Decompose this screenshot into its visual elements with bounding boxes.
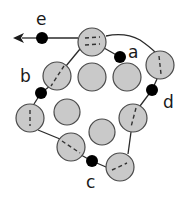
point-c <box>86 155 98 167</box>
label-e: e <box>36 9 46 29</box>
circle-mid-2 <box>113 63 141 91</box>
label-a: a <box>128 42 138 62</box>
point-a <box>114 51 126 63</box>
point-d <box>146 84 158 96</box>
label-b: b <box>20 66 31 86</box>
circle-center-low <box>89 119 115 145</box>
circle-top <box>78 28 106 56</box>
circle-upper-left <box>43 62 71 90</box>
label-c: c <box>86 172 95 192</box>
circle-center <box>54 99 80 125</box>
trajectory-diagram: a b c d e <box>0 0 191 200</box>
circle-mid-1 <box>78 63 106 91</box>
point-e <box>36 32 48 44</box>
point-b <box>35 87 47 99</box>
label-d: d <box>163 92 174 112</box>
